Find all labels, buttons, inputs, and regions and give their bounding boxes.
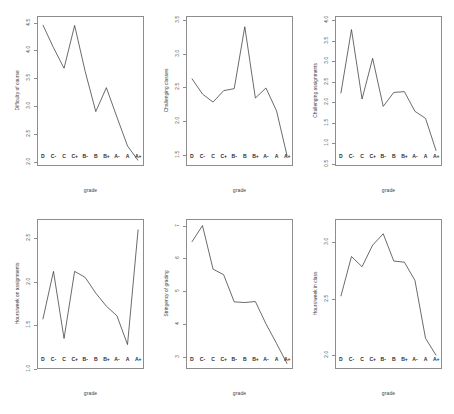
x-axis-tick-label: C+	[369, 357, 375, 362]
x-axis-tick-label: C-	[349, 154, 354, 159]
y-axis-tick-label: 1.5	[175, 147, 180, 161]
x-axis-tick-label: C-	[349, 357, 354, 362]
x-axis-tick-label: C+	[71, 154, 77, 159]
x-axis-tick-label: A+	[135, 357, 141, 362]
y-axis-tick-mark	[183, 121, 186, 122]
y-axis-tick-mark	[183, 291, 186, 292]
x-axis-title: grade	[186, 188, 293, 193]
y-axis-tick-label: 4.0	[324, 12, 329, 26]
y-axis-tick-mark	[183, 54, 186, 55]
y-axis-tick-mark	[34, 23, 37, 24]
y-axis-tick-label: 4.5	[26, 15, 31, 29]
y-axis-tick-mark	[183, 258, 186, 259]
y-axis-tick-mark	[34, 78, 37, 79]
x-axis-tick-label: B	[243, 357, 247, 362]
x-axis-tick-label: A	[424, 357, 428, 362]
x-axis-tick-label: B+	[252, 357, 258, 362]
x-axis-tick-label: B	[392, 154, 396, 159]
y-axis-tick-label: 4.0	[26, 43, 31, 57]
y-axis-tick-mark	[34, 369, 37, 370]
y-axis-tick-label: 1.0	[26, 361, 31, 375]
y-axis-title: Difficulty of course	[16, 15, 21, 165]
x-axis-tick-labels: DC-CC+B-BB+A-AA+	[335, 154, 442, 162]
x-axis-tick-labels: DC-CC+B-BB+A-AA+	[335, 357, 442, 365]
x-axis-tick-label: A+	[433, 154, 439, 159]
y-axis-tick-label: 2.0	[324, 348, 329, 362]
x-axis-tick-label: B+	[401, 154, 407, 159]
plot-area	[37, 16, 144, 166]
x-axis-tick-labels: DC-CC+B-BB+A-AA+	[37, 154, 144, 162]
x-axis-title: grade	[335, 391, 442, 396]
x-axis-title: grade	[37, 188, 144, 193]
x-axis-tick-label: B-	[381, 357, 386, 362]
x-axis-tick-label: D	[41, 357, 45, 362]
plot-area	[186, 16, 293, 166]
x-axis-tick-label: B-	[83, 357, 88, 362]
x-axis-tick-label: B-	[381, 154, 386, 159]
x-axis-tick-label: B+	[103, 154, 109, 159]
x-axis-tick-label: A	[126, 357, 130, 362]
x-axis-tick-label: C-	[51, 357, 56, 362]
x-axis-tick-label: A+	[284, 357, 290, 362]
x-axis-tick-label: C	[211, 154, 215, 159]
y-axis-tick-label: 2.0	[175, 113, 180, 127]
x-axis-title: grade	[335, 188, 442, 193]
x-axis-tick-label: B	[94, 357, 98, 362]
x-axis-tick-label: A-	[412, 357, 417, 362]
x-axis-tick-label: A-	[263, 154, 268, 159]
y-axis-tick-mark	[332, 61, 335, 62]
y-axis-tick-label: 2.5	[324, 291, 329, 305]
y-axis-tick-label: 5	[175, 283, 180, 297]
x-axis-tick-label: D	[339, 154, 343, 159]
y-axis-tick-mark	[34, 106, 37, 107]
y-axis-tick-label: 3.0	[175, 46, 180, 60]
y-axis-tick-label: 3.5	[324, 33, 329, 47]
x-axis-tick-label: A-	[114, 154, 119, 159]
multi-panel-line-chart-figure: 2.02.53.03.54.04.5Difficulty of courseDC…	[0, 0, 454, 414]
y-axis-tick-label: 0.5	[324, 156, 329, 170]
y-axis-tick-label: 7	[175, 218, 180, 232]
x-axis-tick-label: D	[41, 154, 45, 159]
x-axis-title: grade	[186, 391, 293, 396]
y-axis-tick-label: 3.0	[324, 54, 329, 68]
plot-area	[335, 16, 442, 166]
y-axis-title: Hours/week on assignments	[16, 218, 21, 368]
x-axis-tick-label: C+	[220, 357, 226, 362]
x-axis-tick-label: C-	[200, 154, 205, 159]
y-axis-tick-label: 3.0	[324, 234, 329, 248]
y-axis-tick-label: 2.5	[26, 126, 31, 140]
chart-panel-6: 2.02.53.0Hours/week in classDC-CC+B-BB+A…	[298, 207, 449, 414]
x-axis-tick-label: C	[62, 154, 66, 159]
x-axis-tick-label: D	[190, 357, 194, 362]
chart-panel-1: 2.02.53.03.54.04.5Difficulty of courseDC…	[0, 4, 151, 211]
y-axis-tick-label: 2.5	[175, 80, 180, 94]
y-axis-tick-mark	[332, 143, 335, 144]
x-axis-tick-label: C+	[220, 154, 226, 159]
plot-area	[335, 219, 442, 369]
x-axis-tick-label: B+	[252, 154, 258, 159]
x-axis-tick-label: A+	[284, 154, 290, 159]
y-axis-tick-mark	[183, 20, 186, 21]
y-axis-title: Stringency of grading	[165, 218, 170, 368]
chart-panel-3: 0.51.01.52.02.53.03.54.0Challenging assi…	[298, 4, 449, 211]
x-axis-tick-label: C	[62, 357, 66, 362]
y-axis-tick-mark	[332, 299, 335, 300]
x-axis-tick-label: A	[126, 154, 130, 159]
y-axis-tick-mark	[183, 87, 186, 88]
chart-panel-4: 1.01.52.02.5Hours/week on assignmentsDC-…	[0, 207, 151, 414]
y-axis-tick-label: 3.5	[175, 12, 180, 26]
y-axis-tick-mark	[183, 324, 186, 325]
x-axis-tick-label: C+	[71, 357, 77, 362]
x-axis-tick-label: B-	[232, 357, 237, 362]
x-axis-tick-label: C+	[369, 154, 375, 159]
x-axis-tick-label: A+	[433, 357, 439, 362]
x-axis-tick-label: B	[392, 357, 396, 362]
y-axis-tick-label: 2.0	[26, 154, 31, 168]
x-axis-tick-label: B	[243, 154, 247, 159]
x-axis-tick-label: D	[339, 357, 343, 362]
x-axis-tick-label: B+	[401, 357, 407, 362]
x-axis-tick-label: A-	[114, 357, 119, 362]
y-axis-tick-label: 6	[175, 251, 180, 265]
x-axis-tick-labels: DC-CC+B-BB+A-AA+	[186, 154, 293, 162]
y-axis-tick-label: 2.5	[324, 74, 329, 88]
